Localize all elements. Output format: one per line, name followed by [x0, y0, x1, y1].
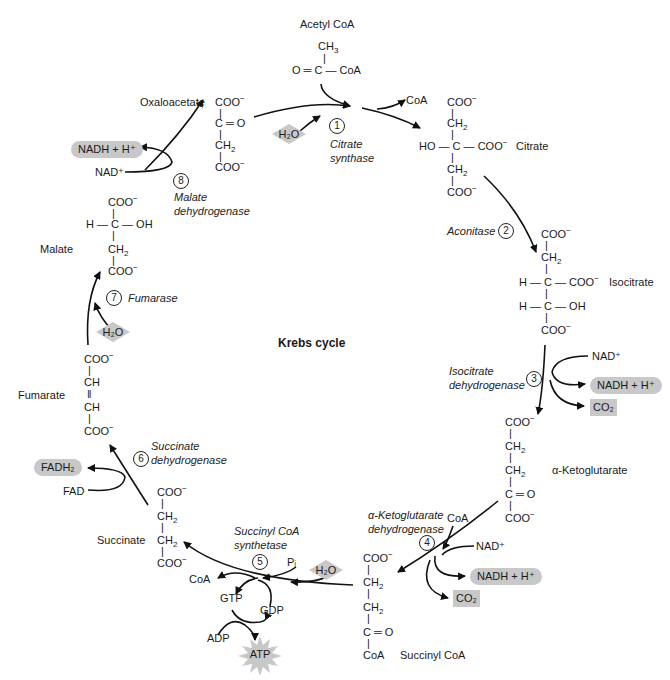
- step-8-number: 8: [173, 173, 189, 189]
- fumarate-label: Fumarate: [18, 389, 65, 402]
- coa-input-label: CoA: [447, 512, 468, 525]
- gdp-label: GDP: [260, 604, 284, 617]
- diagram-title: Krebs cycle: [278, 336, 345, 350]
- bond: |: [509, 451, 512, 464]
- atp-burst: ATP: [238, 636, 282, 676]
- enzyme-isocitrate-dehydrogenase: Isocitratedehydrogenase: [449, 364, 525, 392]
- coa-released-label-5: CoA: [189, 573, 210, 586]
- oxaloacetate-coo: COO−: [215, 161, 245, 174]
- step-3-number: 3: [526, 371, 542, 387]
- malate-coo: COO−: [108, 265, 138, 278]
- acetyl-coa-ch3: CH3: [318, 40, 338, 53]
- bond: |: [367, 563, 370, 576]
- bond: |: [367, 612, 370, 625]
- isocitrate-c2: H — C — COO−: [519, 276, 599, 289]
- scoa-coa: CoA: [363, 649, 384, 662]
- enzyme-aconitase: Aconitase: [447, 224, 495, 238]
- step-6-number: 6: [133, 451, 149, 467]
- oxaloacetate-label: Oxaloacetate: [140, 96, 205, 109]
- bond: |: [545, 287, 548, 300]
- adp-label: ADP: [207, 632, 230, 645]
- succinate-label: Succinate: [97, 534, 145, 547]
- enzyme-malate-dehydrogenase: Malatedehydrogenase: [174, 190, 250, 218]
- nad-plus-label-8: NAD⁺: [95, 166, 124, 179]
- co2-badge-4: CO₂: [453, 590, 480, 607]
- double-bond: ‖: [87, 388, 92, 401]
- bond: |: [112, 229, 115, 242]
- step-1-number: 1: [329, 118, 345, 134]
- isocitrate-label: Isocitrate: [609, 276, 654, 289]
- succinyl-coa-label: Succinyl CoA: [400, 649, 465, 662]
- isocitrate-coo: COO−: [541, 324, 571, 337]
- akg-label: α-Ketoglutarate: [552, 464, 627, 477]
- step-5-number: 5: [252, 554, 268, 570]
- succinate-coo: COO−: [157, 557, 187, 570]
- citrate-label: Citrate: [516, 140, 548, 153]
- bond: |: [545, 311, 548, 324]
- enzyme-succinyl-coa-synthetase: Succinyl CoAsynthetase: [234, 524, 299, 552]
- acetyl-coa-label: Acetyl CoA: [300, 18, 354, 31]
- malate-center: H — C — OH: [86, 218, 153, 231]
- pi-label: Pᵢ: [287, 556, 296, 569]
- citrate-coo: COO−: [447, 186, 477, 199]
- akg-coo: COO−: [505, 512, 535, 525]
- acetyl-coa-carbonyl: O ═ C — CoA: [292, 64, 361, 77]
- nadh-badge: NADH + H⁺: [590, 377, 662, 394]
- enzyme-citrate-synthase: Citratesynthase: [330, 137, 374, 165]
- citrate-center: HO — C — COO−: [419, 140, 507, 153]
- fumarate-coo: COO−: [84, 425, 114, 438]
- step-2-number: 2: [498, 223, 514, 239]
- nadh-badge-4: NADH + H⁺: [470, 568, 542, 585]
- enzyme-succinate-dehydrogenase: Succinatedehydrogenase: [151, 439, 227, 467]
- bond: |: [545, 262, 548, 275]
- bond: |: [509, 499, 512, 512]
- bond: |: [161, 521, 164, 534]
- gtp-label: GTP: [220, 592, 243, 605]
- fadh2-badge: FADH₂: [34, 459, 82, 476]
- h2o-badge: H₂O: [272, 124, 306, 144]
- bond: |: [88, 412, 91, 425]
- fad-label: FAD: [63, 485, 84, 498]
- bond: |: [509, 475, 512, 488]
- fumarate-ch: CH: [84, 401, 100, 414]
- nad-plus-label: NAD⁺: [592, 350, 621, 363]
- step-4-number: 4: [419, 535, 435, 551]
- nadh-badge-8: NADH + H⁺: [71, 141, 143, 158]
- nad-plus-label-4: NAD⁺: [476, 540, 505, 553]
- h2o-badge-5: H₂O: [309, 560, 343, 580]
- h2o-badge-7: H₂O: [96, 322, 130, 342]
- co2-badge: CO₂: [590, 399, 617, 416]
- step-7-number: 7: [106, 290, 122, 306]
- enzyme-fumarase: Fumarase: [128, 291, 178, 305]
- malate-label: Malate: [40, 243, 73, 256]
- bond: |: [509, 427, 512, 440]
- enzyme-akg-dehydrogenase: α-Ketoglutaratedehydrogenase: [368, 508, 444, 536]
- bond: |: [161, 497, 164, 510]
- coa-released-label: CoA: [406, 94, 427, 107]
- bond: |: [367, 587, 370, 600]
- isocitrate-c3: H — C — OH: [519, 300, 586, 313]
